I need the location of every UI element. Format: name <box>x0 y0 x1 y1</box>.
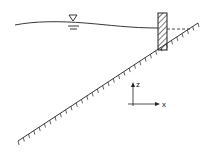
x-axis-label: x <box>162 100 166 109</box>
z-axis-label: z <box>136 80 140 89</box>
sloping-bed <box>18 23 199 145</box>
water-surface-line <box>15 22 158 28</box>
coordinate-axes: z x <box>128 80 166 109</box>
diagram-canvas: z x <box>0 0 211 152</box>
